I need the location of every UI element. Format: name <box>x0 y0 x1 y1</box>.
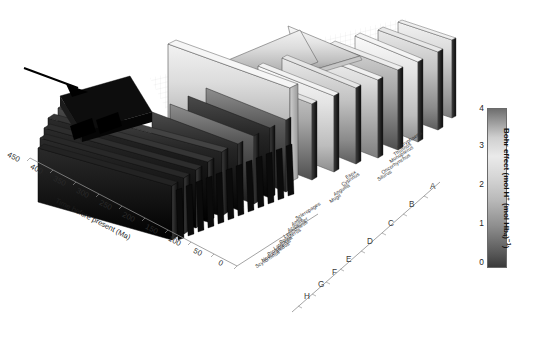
colorbar-units-pre: (mol H <box>502 172 511 197</box>
clade-label-f: F <box>332 268 337 277</box>
clade-label-h: H <box>304 292 310 301</box>
colorbar-units-mid: (mol Hb <box>502 201 511 233</box>
colorbar-tick-0: 0 <box>479 258 484 266</box>
clade-label-g: G <box>318 280 324 289</box>
clade-label-c: C <box>388 219 394 228</box>
clade-axis-ticks <box>298 196 428 308</box>
colorbar-title-main: Bohr effect <box>502 128 511 170</box>
clade-label-e: E <box>346 255 351 264</box>
surface-plot-3d <box>0 0 548 342</box>
clade-label-b: B <box>409 200 414 209</box>
colorbar-title: Bohr effect (mol H+ (mol Hb4)−1) <box>502 128 512 248</box>
colorbar-tick-3: 3 <box>479 141 484 149</box>
colorbar-units-close: ) <box>502 246 511 249</box>
colorbar-tick-1: 1 <box>479 219 484 227</box>
clade-label-a: A <box>430 182 435 191</box>
highlight-arrow <box>24 68 88 97</box>
colorbar-units-exp: −1 <box>506 239 512 246</box>
figure-canvas: 450 400 350 300 250 200 150 100 50 0 Tim… <box>0 0 548 342</box>
colorbar-tick-2: 2 <box>479 180 484 188</box>
clade-label-d: D <box>367 237 373 246</box>
colorbar-tick-4: 4 <box>479 104 484 112</box>
